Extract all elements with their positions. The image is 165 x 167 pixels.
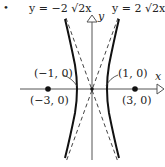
center-point [90,87,94,91]
vertex-right-label: (1, 0) [118,67,148,80]
vertex-left-label: (−1, 0) [34,67,73,80]
hyperbola-diagram [0,0,165,167]
focus-right-label: (3, 0) [122,94,152,107]
asymptote-left-label: y = −2 √2x [29,2,91,15]
x-axis-arrow-icon [157,84,164,94]
focus-left-point [45,86,51,92]
asymptote-right-label: y = 2 √2x [112,2,165,15]
focus-right-point [132,86,138,92]
y-axis-label: y [98,10,104,23]
focus-left-label: (−3, 0) [30,94,69,107]
y-axis-arrow-icon [87,15,97,22]
x-axis-label: x [155,70,161,83]
